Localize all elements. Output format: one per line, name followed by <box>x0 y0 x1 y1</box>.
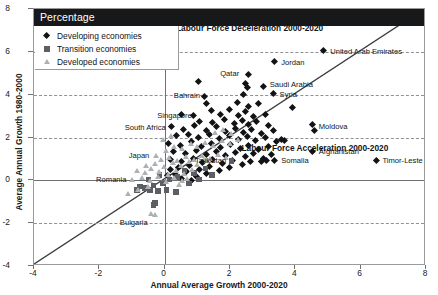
triangle-marker-icon <box>220 127 226 132</box>
triangle-marker-icon <box>158 157 164 162</box>
x-tick-8: 8 <box>423 268 428 278</box>
triangle-marker-icon <box>148 211 154 216</box>
percentage-header-bar: Percentage <box>34 9 424 26</box>
triangle-marker-icon <box>166 155 172 160</box>
square-marker-icon <box>44 46 50 52</box>
triangle-marker-icon <box>142 170 148 175</box>
x-tickmark--2 <box>98 265 99 269</box>
x-tick-4: 4 <box>292 268 297 278</box>
diamond-marker-icon <box>43 32 50 39</box>
triangle-marker-icon <box>147 178 153 183</box>
triangle-marker-icon <box>202 140 208 145</box>
percentage-label: Percentage <box>40 11 95 23</box>
plot-area: United Arab EmiratesJordanQatarSaudi Ara… <box>33 8 425 265</box>
triangle-marker-icon <box>160 137 166 142</box>
triangle-marker-icon <box>165 172 171 177</box>
triangle-marker-icon <box>156 169 162 174</box>
triangle-marker-icon <box>235 137 241 142</box>
x-tickmark-8 <box>425 265 426 269</box>
x-tickmark-6 <box>360 265 361 269</box>
triangle-marker-icon <box>186 159 192 164</box>
gridline-y--2 <box>34 223 424 224</box>
triangle-marker-icon <box>163 148 169 153</box>
triangle-marker-icon <box>125 191 131 196</box>
triangle-marker-icon <box>148 166 154 171</box>
x-tickmark-2 <box>229 265 230 269</box>
y-tick-8: 8 <box>0 3 10 13</box>
gridline-y-4 <box>34 95 424 96</box>
triangle-marker-icon <box>168 133 174 138</box>
point-label-romania: Romania <box>96 177 126 185</box>
square-marker-icon <box>164 187 169 192</box>
triangle-marker-icon <box>227 141 233 146</box>
triangle-marker-icon <box>181 171 187 176</box>
y-tick-4: 4 <box>0 89 10 99</box>
point-label-timor-leste: Timor-Leste <box>383 157 423 165</box>
triangle-marker-icon <box>139 175 145 180</box>
x-tick-0: 0 <box>161 268 166 278</box>
quadrant-annotation-acceleration: Labour Force Acceleration 2000-2020 <box>242 143 389 153</box>
x-tick--4: -4 <box>29 268 36 278</box>
triangle-marker-icon <box>134 168 140 173</box>
triangle-marker-icon <box>145 184 151 189</box>
square-marker-icon <box>186 181 191 186</box>
square-marker-icon <box>196 177 201 182</box>
triangle-marker-icon <box>155 174 161 179</box>
x-tick--2: -2 <box>95 268 102 278</box>
point-label-saudi-arabia: Saudi Arabia <box>270 81 313 89</box>
triangle-marker-icon <box>188 141 194 146</box>
triangle-marker-icon <box>163 179 169 184</box>
chart-root: Average Annual Growth 1980-2000 Annual A… <box>0 0 438 295</box>
point-label-bulgaria: Bulgaria <box>120 219 148 227</box>
x-axis-title: Annual Average Growth 2000-2020 <box>0 280 438 290</box>
legend-label-developed: Developed economies <box>57 57 140 67</box>
triangle-marker-icon <box>228 131 234 136</box>
y-tick--2: -2 <box>0 217 10 227</box>
square-marker-icon <box>155 188 160 193</box>
y-zero-axis <box>34 180 424 181</box>
point-label-south-africa: South Africa <box>125 124 166 132</box>
y-axis-title: Average Annual Growth 1980-2000 <box>14 67 24 217</box>
triangle-marker-icon <box>184 176 190 181</box>
point-label-bahrain: Bahrain <box>174 92 200 100</box>
triangle-marker-icon <box>170 160 176 165</box>
point-label-jordan: Jordan <box>281 59 304 67</box>
legend: Developing economies Transition economie… <box>35 26 179 70</box>
triangle-marker-icon <box>179 146 185 151</box>
triangle-marker-icon <box>176 182 182 187</box>
x-tick-2: 2 <box>227 268 232 278</box>
x-tickmark-0 <box>164 265 165 269</box>
triangle-marker-icon <box>183 154 189 159</box>
y-tick-6: 6 <box>0 46 10 56</box>
y-tick-2: 2 <box>0 132 10 142</box>
square-marker-icon <box>209 172 214 177</box>
x-tick-6: 6 <box>357 268 362 278</box>
triangle-marker-icon <box>219 138 225 143</box>
triangle-marker-icon <box>44 59 50 64</box>
point-label-somalia: Somalia <box>281 157 308 165</box>
x-tickmark--4 <box>33 265 34 269</box>
point-label-united-arab-emirates: United Arab Emirates <box>330 48 402 56</box>
triangle-marker-icon <box>129 177 135 182</box>
point-label-syria: Syria <box>280 91 297 99</box>
y-tick--4: -4 <box>0 260 10 270</box>
legend-label-developing: Developing economies <box>57 31 142 41</box>
point-label-singapore: Singapore <box>157 112 192 120</box>
point-label-tajikistan: Tajikistan <box>195 157 226 165</box>
triangle-marker-icon <box>210 143 216 148</box>
point-label-qatar: Qatar <box>220 71 239 79</box>
y-tick-0: 0 <box>0 174 10 184</box>
triangle-marker-icon <box>171 144 177 149</box>
square-marker-icon <box>229 158 234 163</box>
point-label-japan: Japan <box>129 152 150 160</box>
triangle-marker-icon <box>135 187 141 192</box>
triangle-marker-icon <box>189 167 195 172</box>
triangle-marker-icon <box>171 175 177 180</box>
point-label-moldova: Moldova <box>319 123 348 131</box>
triangle-marker-icon <box>194 144 200 149</box>
square-marker-icon <box>203 166 208 171</box>
triangle-marker-icon <box>212 130 218 135</box>
square-marker-icon <box>151 202 156 207</box>
legend-label-transition: Transition economies <box>57 44 136 54</box>
x-tickmark-4 <box>294 265 295 269</box>
